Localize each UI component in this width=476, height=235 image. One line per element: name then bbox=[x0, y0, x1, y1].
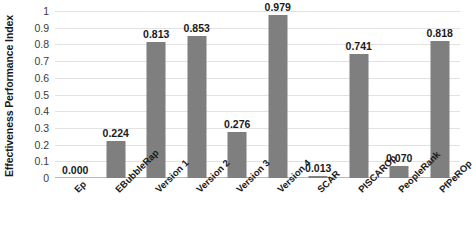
bar-value-label: 0.813 bbox=[143, 28, 169, 40]
x-tick-label: Version 3 bbox=[234, 182, 276, 200]
y-tick-label: 0.3 bbox=[34, 122, 49, 134]
x-tick-label: Version 2 bbox=[194, 182, 236, 200]
bar-value-label: 0.000 bbox=[62, 164, 88, 176]
bar[interactable] bbox=[268, 15, 287, 178]
x-tick-label: Version 4 bbox=[275, 182, 317, 200]
bar-slot[interactable]: 0.013 bbox=[298, 11, 339, 178]
plot-area: 0.0000.2240.8130.8530.2760.9790.0130.741… bbox=[55, 11, 460, 178]
y-tick-label: 0.8 bbox=[34, 38, 49, 50]
bar-value-label: 0.741 bbox=[346, 40, 372, 52]
bars-layer: 0.0000.2240.8130.8530.2760.9790.0130.741… bbox=[55, 11, 460, 178]
y-tick-label: 0.7 bbox=[34, 55, 49, 67]
x-tick-label: PfPeROp bbox=[437, 182, 476, 200]
y-tick-label: 1 bbox=[43, 5, 49, 17]
bar-value-label: 0.853 bbox=[184, 22, 210, 34]
bar-slot[interactable]: 0.741 bbox=[339, 11, 380, 178]
bar-slot[interactable]: 0.979 bbox=[258, 11, 299, 178]
x-tick-label: Ep bbox=[72, 182, 84, 200]
y-tick-label: 0.1 bbox=[34, 155, 49, 167]
y-tick-label: 0.4 bbox=[34, 105, 49, 117]
bar-slot[interactable]: 0.224 bbox=[96, 11, 137, 178]
x-tick-label: Version 1 bbox=[153, 182, 195, 200]
y-axis-tick-labels: 00.10.20.30.40.50.60.70.80.91 bbox=[20, 11, 52, 178]
bar-slot[interactable]: 0.070 bbox=[379, 11, 420, 178]
bar-slot[interactable]: 0.853 bbox=[177, 11, 218, 178]
bar[interactable] bbox=[349, 54, 368, 178]
bar[interactable] bbox=[106, 141, 125, 178]
y-tick-label: 0.2 bbox=[34, 139, 49, 151]
bar-value-label: 0.224 bbox=[103, 127, 129, 139]
y-tick-label: 0 bbox=[43, 172, 49, 184]
y-tick-label: 0.5 bbox=[34, 89, 49, 101]
bar-slot[interactable]: 0.000 bbox=[55, 11, 96, 178]
bar-value-label: 0.818 bbox=[427, 27, 453, 39]
bar-value-label: 0.276 bbox=[224, 118, 250, 130]
y-axis-title-text: Effectiveness Performance Index bbox=[3, 15, 15, 177]
bar[interactable] bbox=[187, 36, 206, 178]
x-axis-tick-labels: EpEBubbleRapVersion 1Version 2Version 3V… bbox=[55, 180, 460, 235]
bar[interactable] bbox=[228, 132, 247, 178]
bar-value-label: 0.979 bbox=[265, 1, 291, 13]
y-tick-label: 0.9 bbox=[34, 22, 49, 34]
y-axis-title: Effectiveness Performance Index bbox=[0, 0, 18, 192]
x-tick-label: SCAR bbox=[315, 182, 342, 200]
bar-slot[interactable]: 0.276 bbox=[217, 11, 258, 178]
x-tick-label-text: Ep bbox=[72, 178, 88, 194]
y-tick-label: 0.6 bbox=[34, 72, 49, 84]
